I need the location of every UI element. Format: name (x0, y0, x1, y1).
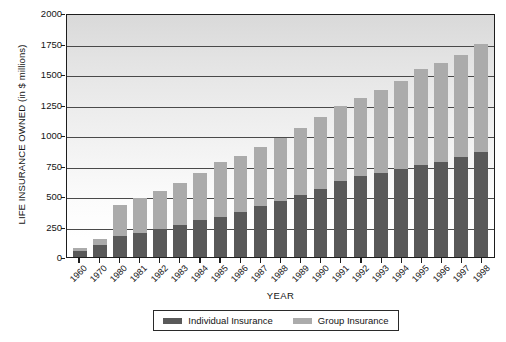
bar-segment-group-insurance[interactable] (414, 69, 428, 165)
bar-segment-group-insurance[interactable] (93, 239, 107, 246)
bar-column[interactable] (230, 15, 250, 257)
bar-segment-individual-insurance[interactable] (334, 181, 348, 257)
bar-segment-group-insurance[interactable] (394, 81, 408, 169)
y-tick-mark (61, 258, 65, 259)
bar-column[interactable] (311, 15, 331, 257)
bar-segment-group-insurance[interactable] (193, 173, 207, 221)
x-tick-label: 1970 (88, 263, 109, 284)
bar-stack[interactable] (193, 173, 207, 257)
x-tick-label: 1992 (350, 263, 371, 284)
bar-segment-individual-insurance[interactable] (374, 173, 388, 257)
bar-column[interactable] (250, 15, 270, 257)
x-tick-label: 1982 (148, 263, 169, 284)
x-label-wrap: 1985 (210, 262, 230, 292)
bar-column[interactable] (371, 15, 391, 257)
bar-segment-individual-insurance[interactable] (474, 152, 488, 257)
bar-segment-group-insurance[interactable] (173, 183, 187, 226)
y-tick-label: 1500 (0, 69, 62, 80)
x-tick-label: 1981 (128, 263, 149, 284)
bar-stack[interactable] (254, 147, 268, 257)
bar-segment-individual-insurance[interactable] (254, 206, 268, 257)
bar-column[interactable] (210, 15, 230, 257)
bar-column[interactable] (70, 15, 90, 257)
bar-column[interactable] (170, 15, 190, 257)
bar-segment-group-insurance[interactable] (454, 55, 468, 157)
x-label-wrap: 1984 (190, 262, 210, 292)
bar-column[interactable] (411, 15, 431, 257)
bar-column[interactable] (190, 15, 210, 257)
bar-stack[interactable] (454, 55, 468, 257)
bar-segment-group-insurance[interactable] (214, 162, 228, 216)
bar-segment-individual-insurance[interactable] (113, 236, 127, 257)
bar-segment-individual-insurance[interactable] (133, 233, 147, 257)
bar-column[interactable] (451, 15, 471, 257)
bar-segment-group-insurance[interactable] (133, 198, 147, 232)
bar-column[interactable] (291, 15, 311, 257)
legend-item[interactable]: Individual Insurance (163, 315, 273, 326)
bar-column[interactable] (351, 15, 371, 257)
chart-legend: Individual InsuranceGroup Insurance (153, 310, 399, 331)
bar-segment-individual-insurance[interactable] (173, 225, 187, 257)
x-label-wrap: 1989 (291, 262, 311, 292)
x-tick-label: 1987 (249, 263, 270, 284)
bar-segment-individual-insurance[interactable] (274, 201, 288, 257)
bar-stack[interactable] (334, 106, 348, 257)
bar-column[interactable] (431, 15, 451, 257)
bar-segment-group-insurance[interactable] (234, 156, 248, 212)
bar-segment-group-insurance[interactable] (314, 117, 328, 190)
bar-segment-group-insurance[interactable] (474, 44, 488, 153)
x-label-wrap: 1983 (170, 262, 190, 292)
bar-segment-individual-insurance[interactable] (394, 169, 408, 257)
bar-segment-group-insurance[interactable] (434, 63, 448, 162)
bar-stack[interactable] (274, 138, 288, 257)
bar-column[interactable] (270, 15, 290, 257)
bar-column[interactable] (391, 15, 411, 257)
bar-segment-individual-insurance[interactable] (93, 245, 107, 257)
bar-segment-individual-insurance[interactable] (214, 217, 228, 257)
bar-stack[interactable] (394, 81, 408, 257)
bar-stack[interactable] (294, 128, 308, 257)
bar-stack[interactable] (234, 156, 248, 257)
legend-item[interactable]: Group Insurance (293, 315, 389, 326)
y-tick-label: 0 (0, 252, 62, 263)
bar-segment-individual-insurance[interactable] (294, 195, 308, 257)
bar-stack[interactable] (113, 205, 127, 257)
bar-segment-individual-insurance[interactable] (414, 165, 428, 257)
bar-stack[interactable] (173, 183, 187, 257)
bar-segment-individual-insurance[interactable] (73, 251, 87, 257)
bar-stack[interactable] (73, 248, 87, 257)
x-label-wrap: 1970 (89, 262, 109, 292)
bar-stack[interactable] (434, 63, 448, 257)
bar-segment-individual-insurance[interactable] (314, 189, 328, 257)
bar-segment-individual-insurance[interactable] (454, 157, 468, 257)
bar-segment-group-insurance[interactable] (274, 138, 288, 201)
bar-segment-group-insurance[interactable] (153, 191, 167, 229)
bar-stack[interactable] (214, 162, 228, 257)
bar-stack[interactable] (374, 90, 388, 257)
bar-segment-group-insurance[interactable] (254, 147, 268, 206)
bar-segment-individual-insurance[interactable] (234, 212, 248, 257)
bar-segment-group-insurance[interactable] (113, 205, 127, 236)
bar-column[interactable] (150, 15, 170, 257)
x-label-wrap: 1997 (452, 262, 472, 292)
bar-column[interactable] (90, 15, 110, 257)
bar-column[interactable] (110, 15, 130, 257)
bar-stack[interactable] (93, 239, 107, 257)
bar-segment-individual-insurance[interactable] (153, 229, 167, 257)
bar-segment-individual-insurance[interactable] (434, 162, 448, 257)
bar-stack[interactable] (153, 191, 167, 257)
bar-stack[interactable] (354, 98, 368, 257)
bar-segment-individual-insurance[interactable] (193, 220, 207, 257)
bar-segment-group-insurance[interactable] (334, 106, 348, 182)
bar-segment-individual-insurance[interactable] (354, 176, 368, 257)
bar-stack[interactable] (474, 44, 488, 257)
bar-stack[interactable] (314, 117, 328, 257)
bar-stack[interactable] (133, 198, 147, 257)
bar-stack[interactable] (414, 69, 428, 257)
bar-column[interactable] (331, 15, 351, 257)
bar-segment-group-insurance[interactable] (374, 90, 388, 173)
bar-column[interactable] (130, 15, 150, 257)
bar-column[interactable] (471, 15, 491, 257)
bar-segment-group-insurance[interactable] (294, 128, 308, 195)
bar-segment-group-insurance[interactable] (354, 98, 368, 177)
